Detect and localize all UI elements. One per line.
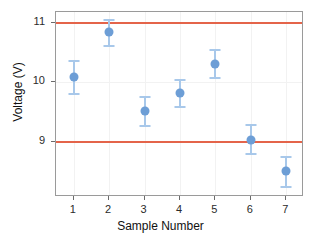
error-bar-cap-upper (210, 49, 221, 51)
error-bar-cap-upper (104, 19, 115, 21)
data-point-marker[interactable] (246, 136, 255, 145)
reference-line-lower-spec-limit (56, 141, 302, 143)
voltage-control-chart: Voltage (V) Sample Number 910111234567 (0, 0, 321, 241)
gridline-vertical (215, 12, 216, 195)
x-axis-tick-mark (108, 196, 109, 200)
y-axis-tick-label: 10 (19, 74, 45, 86)
x-axis-tick-label: 5 (202, 203, 226, 215)
reference-line-upper-spec-limit (56, 22, 302, 24)
y-axis-tick-label: 11 (19, 15, 45, 27)
error-bar-cap-lower (245, 153, 256, 155)
error-bar-cap-upper (68, 60, 79, 62)
gridline-vertical (251, 12, 252, 195)
x-axis-tick-mark (250, 196, 251, 200)
x-axis-tick-label: 4 (167, 203, 191, 215)
x-axis-title: Sample Number (0, 219, 321, 233)
data-point-marker[interactable] (69, 73, 78, 82)
data-point-marker[interactable] (176, 89, 185, 98)
y-axis-tick-label: 9 (19, 134, 45, 146)
y-axis-tick-mark (51, 22, 55, 23)
error-bar-cap-lower (68, 93, 79, 95)
error-bar-cap-lower (139, 125, 150, 127)
x-axis-tick-label: 3 (132, 203, 156, 215)
x-axis-tick-mark (144, 196, 145, 200)
x-axis-tick-mark (214, 196, 215, 200)
x-axis-tick-label: 2 (96, 203, 120, 215)
error-bar-cap-lower (175, 106, 186, 108)
x-axis-tick-label: 6 (238, 203, 262, 215)
x-axis-tick-mark (179, 196, 180, 200)
data-point-marker[interactable] (140, 107, 149, 116)
x-axis-tick-label: 1 (61, 203, 85, 215)
data-point-marker[interactable] (282, 167, 291, 176)
error-bar-cap-upper (245, 124, 256, 126)
error-bar-cap-lower (104, 45, 115, 47)
error-bar-cap-lower (281, 186, 292, 188)
error-bar-cap-upper (175, 79, 186, 81)
data-point-marker[interactable] (105, 27, 114, 36)
y-axis-tick-mark (51, 81, 55, 82)
y-axis-tick-mark (51, 141, 55, 142)
error-bar-cap-upper (281, 156, 292, 158)
gridline-vertical (74, 12, 75, 195)
x-axis-tick-mark (285, 196, 286, 200)
x-axis-tick-mark (73, 196, 74, 200)
x-axis-tick-label: 7 (273, 203, 297, 215)
error-bar-cap-lower (210, 77, 221, 79)
plot-panel (55, 11, 303, 196)
error-bar-cap-upper (139, 96, 150, 98)
data-point-marker[interactable] (211, 60, 220, 69)
